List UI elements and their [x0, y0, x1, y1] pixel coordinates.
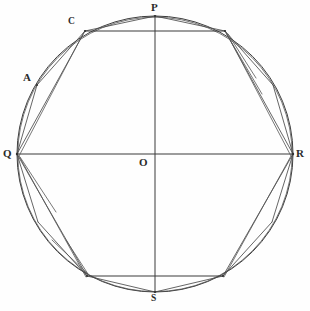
- point-label-O: O: [139, 157, 148, 168]
- chord-Q-to-bottomleft-trace: [19, 156, 86, 277]
- chord-R-to-bottomright-trace: [224, 156, 291, 277]
- vertex-Q: [16, 153, 18, 155]
- vertex-C: [84, 30, 86, 32]
- chord-Cmirror-to-P: [155, 16, 225, 31]
- vertex-bottom-left: [86, 275, 88, 277]
- construction-stroke-ll-2: [52, 240, 88, 274]
- construction-stroke-ur-1: [226, 33, 262, 94]
- chord-Amirror-to-Cmirror: [225, 31, 273, 85]
- vertex-bottom-right: [222, 275, 224, 277]
- chord-lowerleft-to-bottomleft: [38, 222, 87, 276]
- chord-bottomright-to-S: [155, 276, 223, 292]
- chord-R-to-lowerright: [272, 154, 293, 222]
- point-label-S: S: [151, 294, 156, 304]
- chord-R-to-Cmirror-trace: [226, 32, 291, 156]
- point-label-C: C: [68, 17, 75, 27]
- chord-Q-to-A: [17, 85, 37, 154]
- geometry-canvas: [0, 0, 310, 311]
- chord-bottomleft-to-S: [87, 276, 155, 292]
- vertex-R: [292, 153, 294, 155]
- point-label-P: P: [151, 2, 158, 13]
- construction-stroke-ll-1: [20, 157, 56, 212]
- chord-C-to-P: [85, 16, 155, 31]
- chord-Q-to-lowerleft: [17, 154, 38, 222]
- point-label-R: R: [296, 148, 304, 159]
- geometry-figure: P C A Q O R S: [0, 0, 310, 311]
- point-label-A: A: [23, 72, 31, 83]
- chord-A-to-C: [37, 31, 85, 85]
- chord-R-to-Amirror: [273, 85, 293, 154]
- vertex-P: [154, 15, 156, 17]
- point-label-Q: Q: [3, 148, 12, 159]
- vertex-A: [36, 84, 38, 86]
- vertex-C-mirror: [224, 30, 226, 32]
- chord-Q-to-C-trace: [19, 32, 84, 156]
- chord-lowerright-to-bottomright: [223, 222, 272, 276]
